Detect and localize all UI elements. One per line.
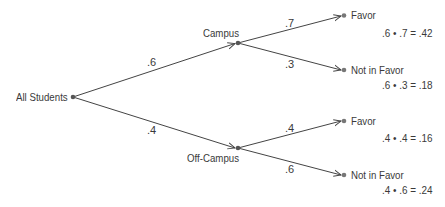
label-offcampus-notfavor: Not in Favor: [351, 169, 404, 181]
node-all-students: [71, 95, 76, 100]
prob-offcampus-notfavor: .6: [285, 163, 294, 175]
edge-all-to-campus: [73, 44, 235, 98]
prob-campus: .6: [147, 56, 156, 68]
calc-offcampus-favor: .4 • .4 = .16: [382, 132, 433, 144]
label-offcampus: Off-Campus: [187, 152, 239, 164]
label-campus-favor: Favor: [351, 9, 376, 21]
prob-offcampus: .4: [147, 124, 156, 136]
edge-all-to-offcampus: [73, 97, 235, 148]
label-campus-notfavor: Not in Favor: [351, 64, 404, 76]
calc-offcampus-notfavor: .4 • .6 = .24: [382, 184, 433, 196]
prob-campus-notfavor: .3: [285, 58, 294, 70]
prob-offcampus-favor: .4: [285, 122, 294, 134]
node-offcampus: [236, 146, 241, 151]
node-campus: [236, 41, 241, 46]
label-offcampus-favor: Favor: [351, 115, 376, 127]
label-all-students: All Students: [16, 91, 68, 103]
calc-campus-favor: .6 • .7 = .42: [382, 27, 433, 39]
node-offcampus-favor: [342, 119, 347, 124]
node-offcampus-notfavor: [342, 173, 347, 178]
node-campus-notfavor: [342, 68, 347, 73]
prob-campus-favor: .7: [285, 17, 294, 29]
calc-campus-notfavor: .6 • .3 = .18: [382, 79, 433, 91]
label-campus: Campus: [203, 27, 239, 39]
node-campus-favor: [342, 13, 347, 18]
